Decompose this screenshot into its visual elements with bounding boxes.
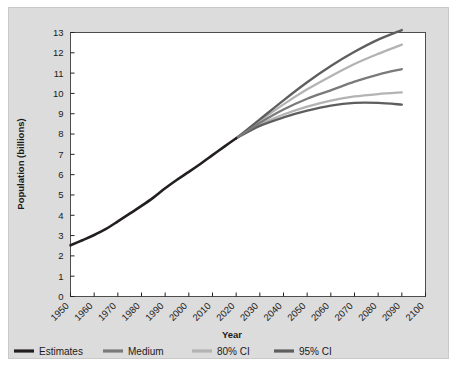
x-tick-label: 1960 xyxy=(72,300,95,323)
legend-label: 95% CI xyxy=(299,346,332,357)
x-tick-label: 2090 xyxy=(380,300,403,323)
y-tick-label: 6 xyxy=(58,169,63,180)
x-tick-label: 2000 xyxy=(167,300,190,323)
x-tick-label: 2020 xyxy=(214,300,237,323)
x-tick-label: 1970 xyxy=(96,300,119,323)
y-tick-label: 13 xyxy=(53,27,64,38)
x-tick-label: 2010 xyxy=(190,300,213,323)
y-tick-label: 1 xyxy=(58,271,63,282)
y-axis-title: Population (billions) xyxy=(15,118,26,209)
population-projection-chart: 012345678910111213 195019601970198019902… xyxy=(0,0,457,374)
x-tick-label: 1950 xyxy=(48,300,71,323)
x-tick-label: 2060 xyxy=(309,300,332,323)
legend-label: 80% CI xyxy=(217,346,250,357)
x-axis-tick-labels: 1950196019701980199020002010202020302040… xyxy=(48,300,426,323)
y-tick-label: 4 xyxy=(58,210,63,221)
y-tick-label: 11 xyxy=(54,68,64,79)
y-tick-label: 9 xyxy=(58,108,63,119)
y-axis-tick-labels: 012345678910111213 xyxy=(53,27,64,302)
x-tick-label: 1990 xyxy=(143,300,166,323)
population-projection-figure: 012345678910111213 195019601970198019902… xyxy=(0,0,457,374)
y-tick-label: 5 xyxy=(58,189,63,200)
x-tick-label: 1980 xyxy=(119,300,142,323)
x-tick-label: 2050 xyxy=(285,300,308,323)
x-axis-title: Year xyxy=(222,329,242,340)
y-tick-label: 12 xyxy=(53,47,64,58)
y-tick-label: 2 xyxy=(58,250,63,261)
y-tick-label: 3 xyxy=(58,230,63,241)
plot-area xyxy=(71,33,426,297)
x-tick-label: 2070 xyxy=(332,300,355,323)
y-tick-label: 8 xyxy=(58,128,63,139)
x-tick-label: 2040 xyxy=(261,300,284,323)
y-tick-label: 10 xyxy=(53,88,64,99)
x-tick-label: 2100 xyxy=(403,300,426,323)
y-tick-label: 7 xyxy=(58,149,63,160)
x-tick-label: 2030 xyxy=(238,300,261,323)
legend-label: Estimates xyxy=(39,346,83,357)
x-tick-label: 2080 xyxy=(356,300,379,323)
legend-label: Medium xyxy=(128,346,164,357)
chart-legend: EstimatesMedium80% CI95% CI xyxy=(14,346,332,357)
